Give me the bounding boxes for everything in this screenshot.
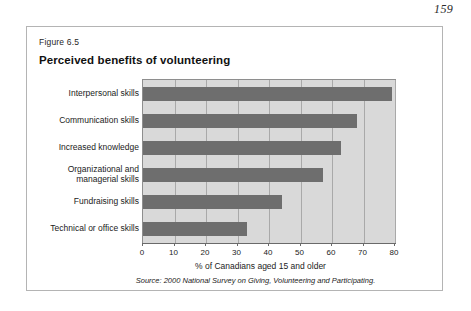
bar (143, 141, 341, 155)
source-note: Source: 2000 National Survey on Giving, … (27, 276, 444, 285)
bar (143, 195, 282, 209)
x-tick (268, 243, 269, 246)
x-tick (363, 243, 364, 246)
x-tick (331, 243, 332, 246)
category-label: Technical or office skills (33, 223, 139, 233)
bar-row (143, 87, 395, 101)
bar (143, 114, 357, 128)
x-tick (142, 243, 143, 246)
gridline (206, 80, 207, 243)
bar (143, 87, 392, 101)
category-axis-labels: Interpersonal skillsCommunication skills… (33, 79, 139, 242)
figure-frame: Figure 6.5 Perceived benefits of volunte… (26, 26, 443, 291)
bar-chart: Interpersonal skillsCommunication skills… (27, 27, 444, 292)
gridline (175, 80, 176, 243)
bar-row (143, 114, 395, 128)
x-tick-label: 10 (169, 248, 178, 257)
x-tick (300, 243, 301, 246)
x-tick-label: 50 (295, 248, 304, 257)
x-tick (205, 243, 206, 246)
x-tick-label: 0 (140, 248, 144, 257)
bar-row (143, 222, 395, 236)
gridline (332, 80, 333, 243)
x-tick-label: 30 (232, 248, 241, 257)
plot-region (142, 79, 396, 244)
gridline (364, 80, 365, 243)
bar-row (143, 168, 395, 182)
page-number: 159 (434, 2, 453, 17)
gridline (269, 80, 270, 243)
gridline (301, 80, 302, 243)
bar (143, 168, 323, 182)
bar-row (143, 195, 395, 209)
category-label: Interpersonal skills (33, 88, 139, 98)
x-tick-label: 70 (358, 248, 367, 257)
bar (143, 222, 247, 236)
x-axis-title: % of Canadians aged 15 and older (27, 261, 444, 271)
category-label: Fundraising skills (33, 196, 139, 206)
x-tick (394, 243, 395, 246)
x-tick-label: 40 (264, 248, 273, 257)
category-label: Increased knowledge (33, 142, 139, 152)
x-axis-line (142, 243, 396, 244)
category-label: Communication skills (33, 115, 139, 125)
x-tick (237, 243, 238, 246)
x-tick-label: 80 (390, 248, 399, 257)
x-tick-label: 60 (327, 248, 336, 257)
gridline (238, 80, 239, 243)
category-label: Organizational andmanagerial skills (33, 164, 139, 184)
bar-row (143, 141, 395, 155)
x-tick (174, 243, 175, 246)
gridline (395, 80, 396, 243)
x-tick-label: 20 (201, 248, 210, 257)
